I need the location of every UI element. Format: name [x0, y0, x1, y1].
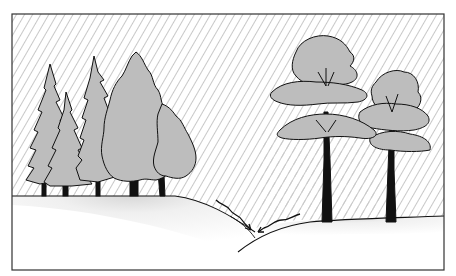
forest-rain-illustration: Line illustration of rain falling on a c… [0, 0, 456, 276]
